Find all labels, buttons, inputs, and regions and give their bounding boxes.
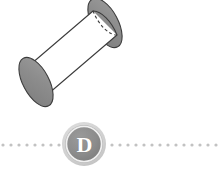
- answer-choice-badge[interactable]: [62, 122, 106, 166]
- figure-page: D: [0, 0, 221, 173]
- geometry-figure-canvas: [0, 0, 221, 173]
